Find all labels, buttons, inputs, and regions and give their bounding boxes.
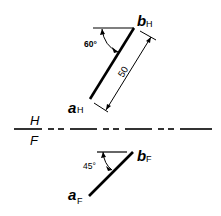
extension-line-b [140,31,156,40]
point-a-top-subscript: H [77,105,84,115]
point-a-front-subscript: F [77,196,83,206]
angle-arrowhead-icon [100,29,105,35]
extension-line-a [94,103,108,112]
length-label: 50 [115,64,130,79]
projection-diagram: 60° 50 b H a H H F 45° b F [0,0,221,216]
point-b-front-label: b [137,147,146,164]
point-b-top-label: b [137,12,146,29]
dimension-arrowhead-icon [106,104,111,110]
fold-label-f: F [30,133,39,148]
point-b-top-subscript: H [146,19,153,29]
angle-arrowhead-icon [112,47,118,53]
angle-label-60: 60° [84,39,97,49]
front-view: 45° b F a F [68,147,152,206]
top-view: 60° 50 b H a H [68,12,156,116]
dimension-arrowhead-icon [146,37,151,43]
point-a-front-label: a [68,186,76,203]
angle-arrowhead-icon [101,152,106,158]
point-b-front-subscript: F [146,154,152,164]
angle-label-45: 45° [83,161,96,171]
fold-label-h: H [30,113,40,128]
line-ab-front-view [89,152,133,196]
angle-arc-60 [102,29,118,52]
point-a-top-label: a [68,99,76,116]
fold-line: H F [14,113,212,148]
